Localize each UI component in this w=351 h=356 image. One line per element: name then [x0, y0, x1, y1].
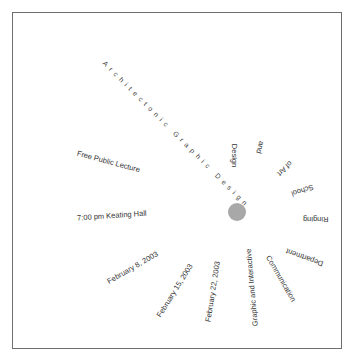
organizer-design: Design	[230, 144, 239, 167]
organizer-ringing: Ringing	[303, 215, 328, 224]
